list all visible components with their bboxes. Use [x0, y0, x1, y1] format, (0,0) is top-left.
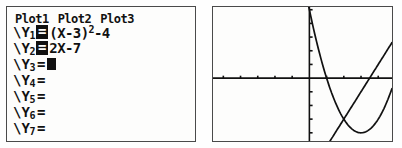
line-style-indicator-y2[interactable]: \ [13, 40, 21, 56]
equals-selected-y1[interactable]: = [36, 25, 48, 39]
line-style-indicator-y6[interactable]: \ [13, 104, 21, 120]
function-name-y2: Y2 [21, 40, 34, 57]
line-style-indicator-y1[interactable]: \ [13, 24, 21, 40]
function-row-y7[interactable]: \ Y7 = [13, 120, 193, 136]
calculator-screenshot: Plot1 Plot2 Plot3 \ Y1 = (X-3)2-4 \ Y2 =… [0, 0, 402, 148]
function-name-y7: Y7 [21, 120, 34, 137]
equals-y7[interactable]: = [36, 120, 46, 136]
line-style-indicator-y3[interactable]: \ [13, 56, 21, 72]
text-cursor [47, 58, 56, 70]
function-row-y2[interactable]: \ Y2 = 2X-7 [13, 40, 193, 56]
equals-y3[interactable]: = [36, 56, 46, 72]
line-style-indicator-y4[interactable]: \ [13, 72, 21, 88]
function-row-y4[interactable]: \ Y4 = [13, 72, 193, 88]
curves-group [304, 7, 392, 141]
graph-plot-area [213, 7, 392, 141]
function-list: \ Y1 = (X-3)2-4 \ Y2 = 2X-7 \ Y3 = \ [13, 24, 193, 136]
line-style-indicator-y7[interactable]: \ [13, 120, 21, 136]
equals-y6[interactable]: = [36, 104, 46, 120]
axes-group [213, 7, 392, 141]
y-editor-screen: Plot1 Plot2 Plot3 \ Y1 = (X-3)2-4 \ Y2 =… [6, 6, 196, 142]
equals-y4[interactable]: = [36, 72, 46, 88]
line-style-indicator-y5[interactable]: \ [13, 88, 21, 104]
function-name-y6: Y6 [21, 104, 34, 121]
equals-selected-y2[interactable]: = [36, 41, 48, 55]
function-row-y1[interactable]: \ Y1 = (X-3)2-4 [13, 24, 193, 40]
function-name-y5: Y5 [21, 88, 34, 105]
function-expression-y1[interactable]: (X-3)2-4 [49, 24, 109, 41]
function-row-y3[interactable]: \ Y3 = [13, 56, 193, 72]
equals-y5[interactable]: = [36, 88, 46, 104]
function-expression-y2[interactable]: 2X-7 [49, 40, 80, 56]
function-name-y3: Y3 [21, 56, 34, 73]
function-row-y6[interactable]: \ Y6 = [13, 104, 193, 120]
graph-screen[interactable] [212, 6, 393, 142]
function-name-y4: Y4 [21, 72, 34, 89]
function-name-y1: Y1 [21, 24, 34, 41]
curve-y2 [314, 43, 392, 141]
function-row-y5[interactable]: \ Y5 = [13, 88, 193, 104]
